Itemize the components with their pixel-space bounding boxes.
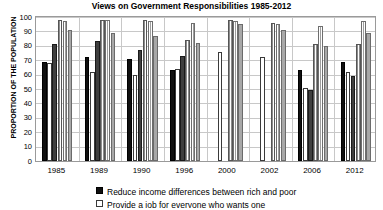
- x-tick-1989: 1989: [78, 166, 121, 175]
- bar-1996-series-2: [180, 56, 185, 161]
- bar-2002-series-5: [281, 30, 286, 161]
- x-tick-2002: 2002: [248, 166, 291, 175]
- legend-swatch-black: [96, 187, 103, 194]
- y-tick-0: 0: [11, 158, 32, 165]
- bar-1990-series-1: [133, 75, 138, 161]
- bar-1990-series-4: [148, 21, 153, 161]
- bar-2012-series-2: [351, 76, 356, 161]
- bar-1985-series-3: [58, 20, 63, 161]
- bar-1985-series-4: [63, 21, 68, 161]
- bar-group-2000: [207, 17, 250, 161]
- bar-1990-series-3: [143, 20, 148, 161]
- bar-1989-series-0: [85, 57, 90, 161]
- bar-group-1990: [121, 17, 164, 161]
- bar-group-1996: [164, 17, 207, 161]
- bar-1996-series-4: [191, 23, 196, 161]
- x-tick-1996: 1996: [163, 166, 206, 175]
- y-tick-10: 10: [11, 143, 32, 150]
- bar-1990-series-0: [127, 59, 132, 161]
- chart-title: Views on Government Responsibilities 198…: [0, 1, 383, 11]
- bar-group-2006: [292, 17, 335, 161]
- bar-1996-series-5: [196, 43, 201, 161]
- chart-container: Views on Government Responsibilities 198…: [0, 0, 383, 210]
- chart-legend: Reduce income differences between rich a…: [0, 182, 383, 208]
- bar-2012-series-3: [356, 44, 361, 161]
- y-tick-20: 20: [11, 129, 32, 136]
- bar-2006-series-5: [324, 46, 329, 161]
- x-tick-1985: 1985: [35, 166, 78, 175]
- bar-1985-series-0: [42, 62, 47, 161]
- bar-2006-series-4: [318, 26, 323, 161]
- x-tick-2012: 2012: [333, 166, 376, 175]
- bar-1985-series-5: [68, 30, 73, 161]
- x-tick-2006: 2006: [291, 166, 334, 175]
- bar-1996-series-3: [185, 40, 190, 161]
- y-tick-40: 40: [11, 100, 32, 107]
- x-tick-2000: 2000: [206, 166, 249, 175]
- bar-1990-series-5: [153, 36, 158, 161]
- y-tick-30: 30: [11, 114, 32, 121]
- bar-2012-series-1: [346, 72, 351, 161]
- y-tick-70: 70: [11, 57, 32, 64]
- bar-group-1989: [79, 17, 122, 161]
- bar-2012-series-4: [361, 21, 366, 161]
- bar-1985-series-1: [47, 63, 52, 161]
- legend-item-1: Provide a job for everyone who wants one: [0, 195, 383, 208]
- x-tick-1990: 1990: [120, 166, 163, 175]
- bar-1996-series-0: [170, 70, 175, 161]
- legend-swatch-dotted: [96, 200, 103, 207]
- bar-1996-series-1: [175, 69, 180, 161]
- bar-group-1985: [36, 17, 79, 161]
- bar-2012-series-0: [341, 62, 346, 161]
- y-tick-100: 100: [11, 14, 32, 21]
- bar-group-2002: [249, 17, 292, 161]
- y-tick-60: 60: [11, 71, 32, 78]
- bar-2002-series-4: [276, 24, 281, 161]
- bar-group-2012: [334, 17, 377, 161]
- bar-1989-series-3: [100, 20, 105, 161]
- y-tick-50: 50: [11, 86, 32, 93]
- bar-2006-series-3: [313, 44, 318, 161]
- bar-2002-series-1: [260, 57, 265, 161]
- y-axis-tick-labels: 1009080706050403020100: [11, 13, 32, 165]
- x-axis-tick-labels: 19851989199019962000200220062012: [35, 166, 376, 178]
- bar-2006-series-1: [303, 88, 308, 161]
- bar-2002-series-3: [271, 23, 276, 161]
- bar-1989-series-1: [90, 72, 95, 161]
- bar-2006-series-0: [298, 70, 303, 161]
- bar-2012-series-5: [366, 33, 371, 161]
- y-tick-90: 90: [11, 28, 32, 35]
- legend-item-0: Reduce income differences between rich a…: [0, 182, 383, 195]
- bar-1989-series-2: [95, 41, 100, 161]
- bar-2000-series-5: [238, 24, 243, 161]
- bar-2006-series-2: [308, 90, 313, 161]
- bar-2000-series-4: [233, 21, 238, 161]
- bar-1990-series-2: [138, 50, 143, 161]
- legend-label-1: Provide a job for everyone who wants one: [107, 200, 265, 208]
- bar-1989-series-4: [105, 20, 110, 161]
- y-tick-80: 80: [11, 42, 32, 49]
- bar-1989-series-5: [111, 33, 116, 161]
- plot-area: [35, 16, 376, 162]
- bar-1985-series-2: [52, 44, 57, 161]
- bar-2000-series-3: [228, 20, 233, 161]
- bar-2000-series-1: [218, 52, 223, 161]
